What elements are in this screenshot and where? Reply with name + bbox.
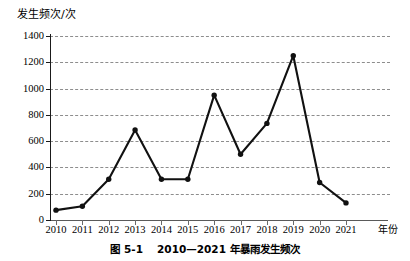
data-point-2019 xyxy=(291,53,296,58)
data-series-svg xyxy=(0,0,410,261)
figure-caption-number: 图 5-1 xyxy=(110,243,143,255)
data-point-2016 xyxy=(211,92,216,97)
data-point-2013 xyxy=(132,127,137,132)
data-point-2021 xyxy=(343,200,348,205)
data-point-2018 xyxy=(264,121,269,126)
data-point-2020 xyxy=(317,180,322,185)
data-point-2014 xyxy=(159,177,164,182)
data-point-2010 xyxy=(53,207,58,212)
figure-caption-text: 2010—2021 年暴雨发生频次 xyxy=(157,243,300,255)
series-markers-group xyxy=(53,53,348,213)
series-line-baoyu-frequency xyxy=(56,56,346,210)
data-point-2015 xyxy=(185,177,190,182)
data-point-2012 xyxy=(106,177,111,182)
figure-container: 发生频次/次 0200400600800100012001400 2010201… xyxy=(0,0,410,261)
data-point-2017 xyxy=(238,152,243,157)
data-point-2011 xyxy=(80,204,85,209)
x-axis-title: 年份 xyxy=(378,224,398,236)
figure-caption: 图 5-12010—2021 年暴雨发生频次 xyxy=(0,243,410,256)
